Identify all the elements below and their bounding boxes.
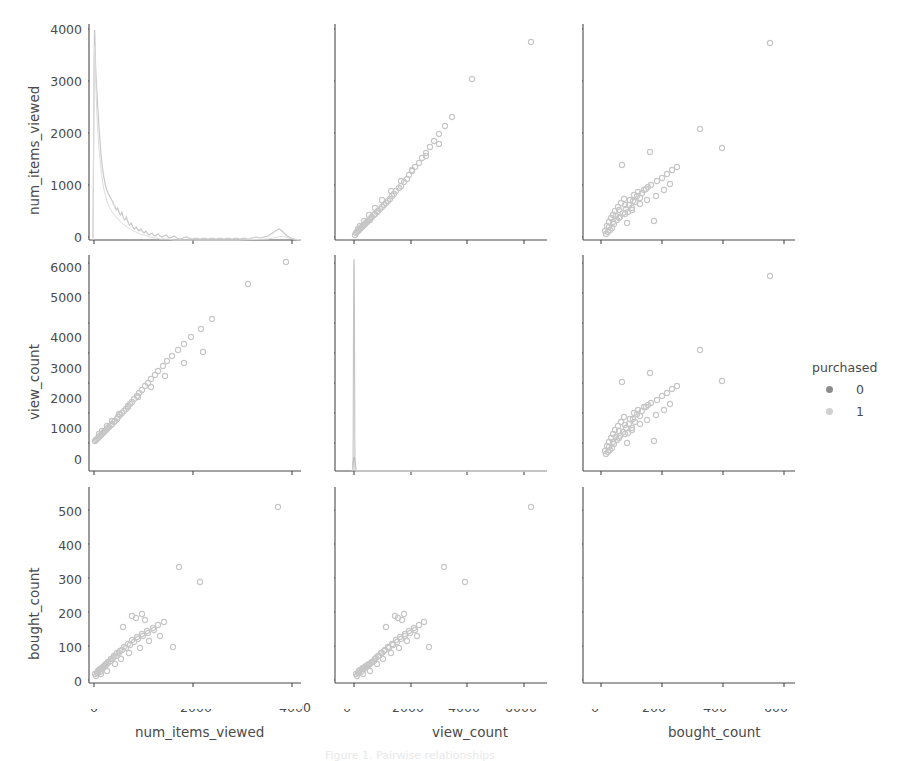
ytick-r2-0: 0: [26, 674, 82, 689]
kde-curve-r0c0: [93, 30, 301, 240]
legend-label-0: 0: [856, 382, 864, 397]
scatter-points-r1c2: [602, 273, 772, 456]
ylabel-row1: view_count: [26, 344, 42, 420]
ytick-r0-1000: 1000: [26, 178, 82, 193]
ytick-r1-0: 0: [26, 452, 82, 467]
ytick-r1-5000: 5000: [26, 290, 82, 305]
scatter-points-r2c0: [92, 504, 280, 678]
axis-spines-r2c2: [582, 487, 795, 687]
panel-r1c1-svg: [334, 255, 548, 477]
xlabel-col2: bought_count: [668, 724, 761, 740]
legend-label-1: 1: [856, 404, 864, 419]
xlabel-col1: view_count: [432, 724, 508, 740]
ytick-r1-3000: 3000: [26, 361, 82, 376]
legend-swatch-wrap-0: [812, 386, 846, 393]
scatter-points-r2c1: [353, 504, 533, 678]
panel-r2c2-kde-bought-count: [582, 487, 796, 709]
panel-r1c1-kde-view-count: [334, 255, 548, 477]
ytick-r2-400: 400: [26, 538, 82, 553]
panel-r1c2-scatter-bought-count-vs-view-count: [582, 255, 796, 477]
xlabel-col0: num_items_viewed: [135, 724, 264, 740]
ytick-r1-2000: 2000: [26, 391, 82, 406]
axis-spines-r2c1: [334, 487, 547, 687]
ytick-r2-200: 200: [26, 606, 82, 621]
axis-spines-r1c2: [582, 255, 795, 475]
legend-marker-1-icon: [826, 408, 833, 415]
axis-spines-r1c1: [334, 255, 547, 475]
ytick-r2-500: 500: [26, 504, 82, 519]
panel-r1c2-svg: [582, 255, 796, 477]
scatter-points-r0c2: [602, 40, 772, 236]
panel-r0c2-svg: [582, 24, 796, 246]
figure-caption: Figure 1. Pairwise relationships: [200, 749, 620, 761]
scatter-points-r0c1: [352, 39, 533, 237]
panel-r0c2-scatter-bought-count-vs-num-items-viewed: [582, 24, 796, 246]
ytick-r1-4000: 4000: [26, 330, 82, 345]
legend-entry-1[interactable]: 1: [812, 404, 877, 419]
panel-r0c0-kde-num-items-viewed: [88, 24, 302, 246]
legend-title: purchased: [812, 360, 877, 375]
axis-spines-r0c0: [88, 24, 301, 244]
panel-r1c0-svg: [88, 255, 302, 477]
ytick-r2-300: 300: [26, 572, 82, 587]
ytick-r1-1000: 1000: [26, 421, 82, 436]
legend-marker-0-icon: [826, 386, 833, 393]
scatter-points-r1c0: [92, 259, 288, 443]
ytick-r0-2000: 2000: [26, 126, 82, 141]
ytick-r2-100: 100: [26, 640, 82, 655]
panel-r2c2-svg: [582, 487, 796, 709]
panel-r2c1-scatter-view-count-vs-bought-count: [334, 487, 548, 709]
legend-entry-0[interactable]: 0: [812, 382, 877, 397]
panel-r2c1-svg: [334, 487, 548, 709]
axis-spines-r0c1: [334, 24, 547, 244]
panel-r2c0-svg: [88, 487, 302, 709]
panel-r0c1-svg: [334, 24, 548, 246]
ytick-r0-4000: 4000: [26, 22, 82, 37]
ytick-r0-0: 0: [26, 230, 82, 245]
ytick-r1-6000: 6000: [26, 260, 82, 275]
ytick-r0-3000: 3000: [26, 74, 82, 89]
panel-r2c0-scatter-num-items-viewed-vs-bought-count: [88, 487, 302, 709]
panel-r0c0-svg: [88, 24, 302, 246]
legend-swatch-wrap-1: [812, 408, 846, 415]
axis-spines-r0c2: [582, 24, 795, 244]
panel-r0c1-scatter-view-count-vs-num-items-viewed: [334, 24, 548, 246]
axis-spines-r1c0: [88, 255, 301, 475]
pairplot-figure: num_items_viewed view_count bought_count…: [0, 0, 900, 761]
ylabel-row0: num_items_viewed: [26, 86, 42, 215]
legend-purchased: purchased 0 1: [812, 360, 877, 419]
kde-curve-r1c1: [352, 259, 547, 471]
panel-r1c0-scatter-num-items-viewed-vs-view-count: [88, 255, 302, 477]
